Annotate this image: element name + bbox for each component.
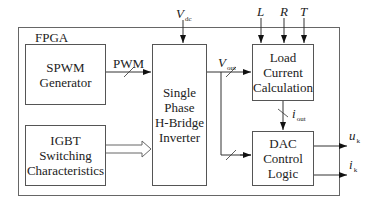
dac-line-1: DAC [263, 136, 303, 151]
spwm-generator-block: SPWM Generator [25, 44, 106, 105]
igbt-line-2: Switching [27, 148, 104, 163]
load-current-block: Load Current Calculation [252, 44, 314, 101]
pwm-label: PWM [113, 56, 144, 72]
vout-label: Vout [218, 55, 236, 71]
ik-label: ik [349, 157, 357, 173]
vout-branch-line [221, 72, 251, 155]
igbt-line-1: IGBT [27, 133, 104, 148]
L-label: L [257, 4, 264, 20]
inverter-line-3: H-Bridge [155, 115, 204, 130]
igbt-hollow-arrow [106, 141, 151, 157]
inverter-line-1: Single [155, 85, 204, 100]
igbt-switching-block: IGBT Switching Characteristics [25, 125, 106, 186]
inverter-block: Single Phase H-Bridge Inverter [152, 44, 207, 186]
T-label: T [300, 4, 307, 20]
uk-label: uk [349, 128, 360, 144]
spwm-line-2: Generator [40, 75, 92, 90]
dac-control-block: DAC Control Logic [252, 131, 314, 186]
iout-label: iout [292, 106, 306, 122]
dac-line-2: Control [263, 151, 303, 166]
spwm-line-1: SPWM [40, 60, 92, 75]
dac-line-3: Logic [263, 166, 303, 181]
inverter-line-2: Phase [155, 100, 204, 115]
load-line-3: Calculation [253, 80, 313, 95]
load-line-1: Load [253, 50, 313, 65]
vdc-label: Vdc [176, 6, 192, 22]
R-label: R [280, 4, 288, 20]
load-line-2: Current [253, 65, 313, 80]
inverter-line-4: Inverter [155, 130, 204, 145]
igbt-line-3: Characteristics [27, 163, 104, 178]
